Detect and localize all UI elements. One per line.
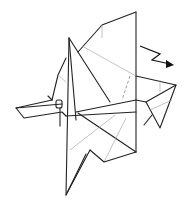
middle-folds [66,100,136,162]
central-spike [52,38,110,195]
right-flap [136,76,176,128]
lower-spike [66,150,90,195]
left-wing [16,96,66,126]
origami-diagram [0,0,188,201]
zigzag-arrow-icon [140,46,174,68]
upper-flap [78,12,136,152]
